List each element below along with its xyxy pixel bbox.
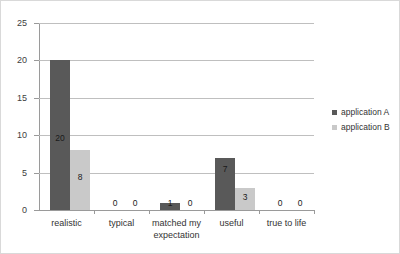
bar-chart-figure: 25 20 15 10 5 0 bbox=[0, 0, 400, 254]
legend-swatch-icon bbox=[332, 125, 337, 130]
bar-label-series-b-useful: 3 bbox=[235, 193, 255, 202]
x-axis-category-line: typical bbox=[94, 217, 149, 229]
x-axis-tick-mark bbox=[204, 210, 205, 214]
x-axis-category-line: true to life bbox=[259, 217, 314, 229]
bar-label-series-a-realistic: 20 bbox=[50, 134, 70, 143]
x-axis-tick-mark bbox=[314, 210, 315, 214]
bar-label-series-a-matched-my-expectation: 1 bbox=[160, 199, 180, 208]
x-axis-category-label-true-to-life: true to life bbox=[259, 217, 314, 229]
x-axis-category-line: realistic bbox=[39, 217, 94, 229]
x-axis-line bbox=[39, 210, 315, 211]
bar-label-series-b-true-to-life: 0 bbox=[290, 199, 310, 208]
y-axis-tick-label: 15 bbox=[1, 94, 27, 103]
gridline bbox=[39, 135, 314, 136]
bar-label-series-b-matched-my-expectation: 0 bbox=[180, 199, 200, 208]
plot-area: 20 8 0 0 1 0 7 3 0 0 bbox=[39, 23, 314, 210]
legend-item-application-b: application B bbox=[332, 122, 398, 132]
legend-swatch-icon bbox=[332, 110, 337, 115]
bar-label-series-a-useful: 7 bbox=[215, 165, 235, 174]
x-axis-category-line: matched my bbox=[149, 217, 204, 229]
legend-label: application A bbox=[341, 108, 389, 117]
y-axis-tick-label: 0 bbox=[1, 206, 27, 215]
x-axis-category-label-useful: useful bbox=[204, 217, 259, 229]
legend-label: application B bbox=[341, 123, 390, 132]
x-axis-category-label-realistic: realistic bbox=[39, 217, 94, 229]
y-axis-tick-label: 5 bbox=[1, 169, 27, 178]
gridline bbox=[39, 23, 314, 24]
x-axis-category-line: expectation bbox=[149, 229, 204, 241]
bar-label-series-a-typical: 0 bbox=[105, 199, 125, 208]
x-axis-category-line: useful bbox=[204, 217, 259, 229]
x-axis-category-label-matched-my-expectation: matched my expectation bbox=[149, 217, 204, 241]
gridline bbox=[39, 98, 314, 99]
x-axis-tick-mark bbox=[149, 210, 150, 214]
x-axis-tick-mark bbox=[94, 210, 95, 214]
y-axis-tick-label: 20 bbox=[1, 56, 27, 65]
x-axis-category-label-typical: typical bbox=[94, 217, 149, 229]
bar-label-series-b-typical: 0 bbox=[125, 199, 145, 208]
y-axis-tick-label: 25 bbox=[1, 19, 27, 28]
legend-item-application-a: application A bbox=[332, 107, 398, 117]
bar-label-series-a-true-to-life: 0 bbox=[270, 199, 290, 208]
chart-legend: application A application B bbox=[332, 107, 398, 137]
x-axis-tick-mark bbox=[259, 210, 260, 214]
y-axis-tick-label: 10 bbox=[1, 131, 27, 140]
bar-label-series-b-realistic: 8 bbox=[70, 173, 90, 182]
gridline bbox=[39, 60, 314, 61]
